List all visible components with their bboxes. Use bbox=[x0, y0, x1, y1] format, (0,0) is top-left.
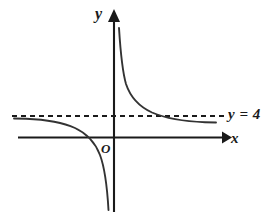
hyperbola-right-branch bbox=[119, 28, 216, 123]
y-axis-label: y bbox=[95, 6, 102, 22]
origin-label: O bbox=[101, 142, 110, 155]
x-axis-label: x bbox=[231, 131, 239, 146]
y-axis-arrowhead bbox=[108, 9, 120, 22]
asymptote-label: y = 4 bbox=[228, 107, 261, 122]
graph-figure: y x O y = 4 bbox=[0, 0, 269, 218]
hyperbola-left-branch bbox=[14, 119, 109, 211]
